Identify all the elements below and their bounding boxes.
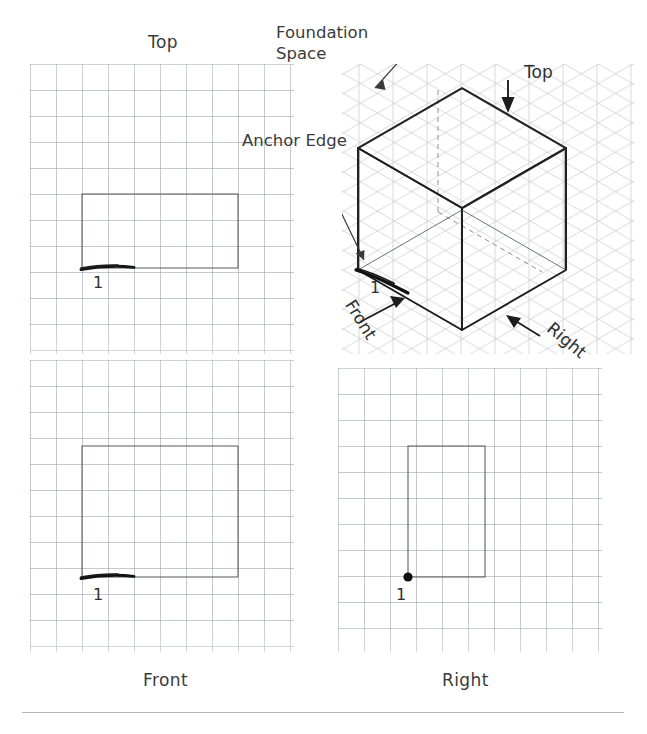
- foundation-space-line-1: Foundation: [276, 23, 368, 42]
- isometric-grid-paper: [342, 64, 634, 354]
- view-caption-right: Right: [442, 670, 489, 690]
- anchor-dimension-top-view: 1: [93, 273, 103, 292]
- foundation-space-line-2: Space: [276, 44, 326, 63]
- anchor-dimension-pictorial: 1: [370, 278, 380, 297]
- footer-divider: [22, 712, 624, 713]
- anchor-dimension-front-view: 1: [93, 585, 103, 604]
- grid-paper-top-view: [30, 64, 294, 354]
- view-caption-top: Top: [148, 32, 178, 52]
- annotation-foundation-space: Foundation Space: [276, 22, 368, 64]
- view-caption-front: Front: [143, 670, 188, 690]
- anchor-dimension-right-view: 1: [396, 585, 406, 604]
- pictorial-label-top: Top: [524, 62, 553, 82]
- grid-paper-front-view: [30, 360, 294, 652]
- annotation-anchor-edge: Anchor Edge: [242, 130, 347, 151]
- grid-paper-right-view: [338, 368, 602, 652]
- figure-page: Top 1: [0, 0, 647, 734]
